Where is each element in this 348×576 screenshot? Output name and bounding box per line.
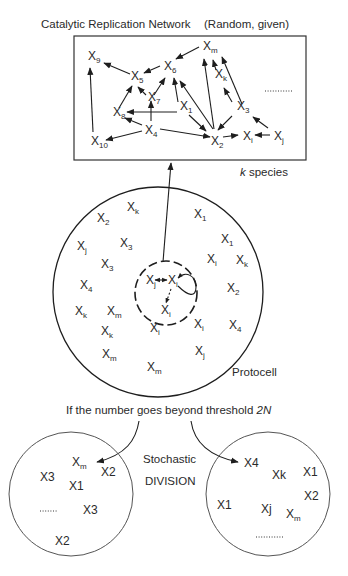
edge-x5-x9	[104, 63, 130, 74]
edge-x7-x5	[138, 87, 146, 95]
edge-x1-x2	[189, 115, 206, 131]
molecule: Xk	[127, 200, 140, 216]
protocell-label: Protocell	[232, 366, 277, 378]
molecule: X1	[217, 498, 232, 512]
node-x8: X8	[113, 105, 126, 121]
daughter-cell-left-membrane	[9, 432, 133, 556]
edge-x4-x10	[106, 131, 142, 140]
replication-product-arrow	[166, 289, 171, 303]
molecule: Xm	[147, 360, 162, 376]
molecule: Xm	[286, 507, 301, 523]
molecule: Xm	[72, 455, 87, 471]
daughter-cell-left: Xm X2 X3 X1 X3 X2	[9, 432, 133, 556]
edge-x6-x5	[144, 66, 160, 73]
molecule: X3	[83, 503, 98, 517]
network-title: Catalytic Replication Network	[41, 18, 191, 30]
species-count-label: k species	[240, 166, 288, 178]
edge-x3-x2	[218, 116, 232, 130]
molecule: X3	[40, 470, 55, 484]
molecule: X1	[194, 207, 207, 223]
molecule: Xk	[272, 468, 287, 482]
molecule: X1	[221, 232, 234, 248]
node-x10: X10	[91, 134, 108, 150]
threshold-text: If the number goes beyond threshold 2N	[66, 404, 272, 416]
node-x9: X9	[88, 49, 101, 65]
edge-x1-x6	[174, 78, 178, 102]
network-box	[74, 36, 306, 160]
replication-zone: Xj Xi Xi	[135, 261, 197, 325]
edge-x2-xi	[223, 135, 238, 137]
node-xj: Xj	[274, 129, 284, 145]
molecule: X4	[244, 456, 259, 470]
protocell-molecules: Xk X2 X1 X1 Xj X3 X3 Xi Xk X4 X2 Xk Xm X…	[75, 200, 249, 376]
daughter-cell-right: X4 Xk X1 X2 X1 Xj Xm	[206, 432, 330, 556]
molecule: Xj	[261, 502, 272, 516]
edge-x10-x9	[90, 68, 93, 132]
molecule: Xk	[236, 253, 249, 269]
self-replication-loop	[178, 274, 196, 294]
replicated-molecule: Xi	[161, 303, 171, 319]
molecule: X2	[227, 281, 240, 297]
molecule: Xm	[107, 304, 122, 320]
molecule: X2	[97, 211, 110, 227]
node-xm: Xm	[203, 39, 218, 55]
molecule: X2	[55, 534, 70, 548]
edge-xj-x3	[253, 117, 268, 128]
molecule: X2	[304, 489, 319, 503]
node-xi: Xi	[243, 129, 253, 145]
molecule: Xi	[207, 252, 217, 268]
node-x2: X2	[211, 134, 224, 150]
edge-xm-x6	[176, 47, 199, 59]
template-molecule: Xi	[168, 273, 178, 289]
edge-x3-xk	[224, 88, 232, 102]
molecule: X1	[69, 479, 84, 493]
edge-x4-x2	[160, 129, 210, 137]
division-arrow-right	[191, 421, 238, 462]
network-connector-arrow	[163, 163, 171, 262]
node-x7: X7	[148, 90, 161, 106]
molecule: Xk	[101, 324, 114, 340]
catalyst-molecule: Xj	[146, 273, 156, 289]
node-x1: X1	[180, 99, 193, 115]
molecule: X4	[80, 278, 93, 294]
molecule: X2	[101, 465, 116, 479]
node-x5: X5	[131, 69, 144, 85]
node-xk: Xk	[215, 67, 228, 83]
network-title-note: (Random, given)	[204, 18, 289, 30]
molecule: X4	[229, 318, 242, 334]
molecule: Xj	[195, 344, 205, 360]
molecule: Xi	[194, 317, 204, 333]
molecule: X3	[101, 257, 114, 273]
molecule: Xj	[77, 239, 87, 255]
edge-x4-x8	[125, 118, 142, 125]
molecule: X3	[120, 236, 133, 252]
molecule: X1	[303, 465, 318, 479]
molecule: Xk	[75, 304, 88, 320]
node-x3: X3	[237, 99, 250, 115]
molecule: Xm	[102, 347, 117, 363]
protocell-replication-diagram: Catalytic Replication Network (Random, g…	[0, 0, 348, 576]
node-x4: X4	[145, 123, 158, 139]
division-label-line2: DIVISION	[145, 475, 195, 487]
division-label-line1: Stochastic	[143, 453, 196, 465]
node-x6: X6	[164, 59, 177, 75]
network-edges	[90, 47, 270, 140]
